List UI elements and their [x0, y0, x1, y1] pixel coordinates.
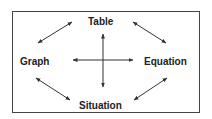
- node-situation: Situation: [79, 101, 122, 111]
- node-graph: Graph: [20, 57, 49, 67]
- arrow-table-equation: [133, 22, 166, 43]
- arrow-equation-situation: [134, 78, 167, 100]
- node-table: Table: [88, 17, 113, 27]
- node-equation: Equation: [144, 57, 187, 67]
- arrow-graph-situation: [36, 78, 70, 100]
- arrow-table-graph: [38, 22, 72, 43]
